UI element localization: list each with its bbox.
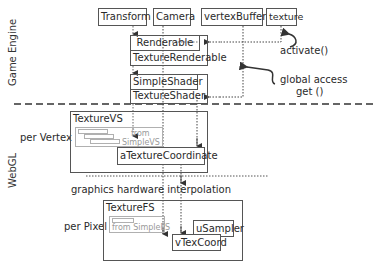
get-label: get () — [296, 86, 323, 97]
from-simple-fs-label: from SimpleFS — [112, 223, 170, 232]
from-simple-vs-line1: from — [131, 129, 150, 138]
a-texture-coordinate-box: aTextureCoordinate — [117, 147, 205, 165]
from-simple-vs-line2: SimpleVS — [122, 138, 160, 147]
activate-label: activate() — [280, 45, 328, 56]
texture-fs-title: TextureFS — [106, 201, 155, 214]
simple-vs-layer-3 — [90, 139, 120, 144]
simple-fs-group: from SimpleFS — [109, 216, 165, 233]
texture-renderable-box: Renderable TextureRenderable — [130, 35, 208, 66]
camera-box: Camera — [153, 8, 191, 26]
interpolation-label: graphics hardware interpolation — [71, 184, 231, 195]
texture-shader-box: SimpleShader TextureShader — [130, 74, 208, 104]
simple-vs-group: from SimpleVS — [75, 127, 163, 147]
texture-vs-title: TextureVS — [73, 112, 123, 125]
vertex-buffer-box: vertexBuffer — [201, 8, 263, 26]
renderable-box: Renderable — [130, 35, 200, 51]
texture-box: texture — [266, 8, 297, 26]
global-access-arrow — [247, 67, 275, 84]
texture-vs-box: TextureVS from SimpleVS aTextureCoordina… — [70, 111, 208, 173]
global-access-label: global access — [280, 74, 347, 85]
transform-box: Transform — [98, 8, 147, 26]
texture-fs-box: TextureFS from SimpleFS uSampler vTexCoo… — [103, 200, 243, 261]
simple-shader-box: SimpleShader — [130, 74, 198, 90]
v-tex-coord-box: vTexCoord — [172, 234, 221, 251]
texture-renderable-label: TextureRenderable — [133, 51, 227, 65]
texture-shader-label: TextureShader — [133, 89, 205, 103]
